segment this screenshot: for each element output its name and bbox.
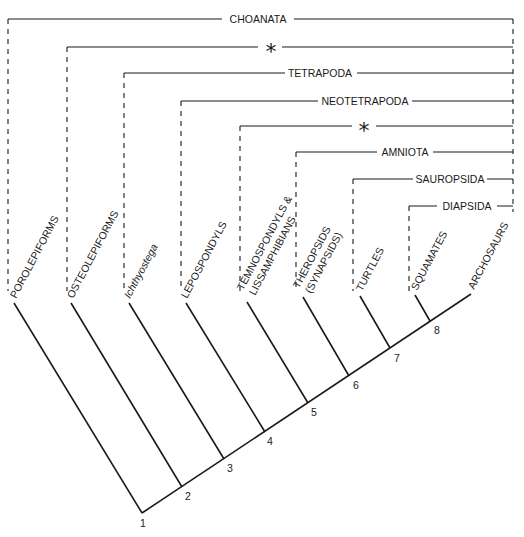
clade-label-diapsida: DIAPSIDA bbox=[442, 200, 491, 212]
clade-label-choanata: CHOANATA bbox=[230, 13, 287, 25]
branch-porolepiforms bbox=[14, 303, 142, 513]
branch-lepospondyls bbox=[186, 303, 265, 432]
branch-squamates bbox=[415, 295, 430, 321]
clade-bracket-neotetrapoda: NEOTETRAPODA bbox=[181, 94, 513, 291]
branch-turtles bbox=[360, 296, 390, 348]
asterisk-icon: * bbox=[359, 118, 370, 143]
node-label-7: 7 bbox=[394, 352, 400, 364]
taxon-label-porolepiforms: POROLEPIFORMS bbox=[7, 213, 61, 300]
branch-theropsids bbox=[303, 297, 349, 376]
clade-bracket-sauropsida: SAUROPSIDA bbox=[353, 172, 513, 291]
cladogram: CHOANATA * TETRAPODA NEOTETRAPODA * AMNI… bbox=[0, 0, 524, 537]
taxon-label-osteolepiforms: OSTEOLEPIFORMS bbox=[64, 208, 120, 300]
node-label-8: 8 bbox=[434, 324, 440, 336]
node-label-3: 3 bbox=[227, 462, 233, 474]
asterisk-icon: * bbox=[266, 39, 277, 64]
clade-label-tetrapoda: TETRAPODA bbox=[288, 67, 352, 79]
taxon-label-ichthyostega: Ichthyostega bbox=[121, 242, 160, 300]
node-label-5: 5 bbox=[311, 406, 317, 418]
clade-label-neotetrapoda: NEOTETRAPODA bbox=[322, 95, 409, 107]
taxon-label-squamates: SQUAMATES bbox=[408, 229, 449, 292]
branch-temnospondyls bbox=[247, 302, 308, 403]
taxon-labels: POROLEPIFORMS OSTEOLEPIFORMS Ichthyosteg… bbox=[7, 194, 510, 300]
clade-label-sauropsida: SAUROPSIDA bbox=[416, 173, 485, 185]
clade-label-amniota: AMNIOTA bbox=[381, 146, 428, 158]
node-label-1: 1 bbox=[140, 517, 146, 529]
branch-ichthyostega bbox=[129, 303, 224, 459]
node-label-4: 4 bbox=[267, 435, 273, 447]
branch-osteolepiforms bbox=[71, 303, 182, 487]
tree-branches bbox=[14, 294, 471, 513]
taxon-label-turtles: TURTLES bbox=[353, 245, 386, 293]
taxon-label-archosaurs: ARCHOSAURS bbox=[465, 220, 510, 291]
taxon-label-lepospondyls: LEPOSPONDYLS bbox=[178, 219, 229, 300]
node-label-6: 6 bbox=[353, 379, 359, 391]
main-spine bbox=[142, 294, 471, 513]
node-label-2: 2 bbox=[185, 490, 191, 502]
node-labels: 1 2 3 4 5 6 7 8 bbox=[140, 324, 440, 529]
